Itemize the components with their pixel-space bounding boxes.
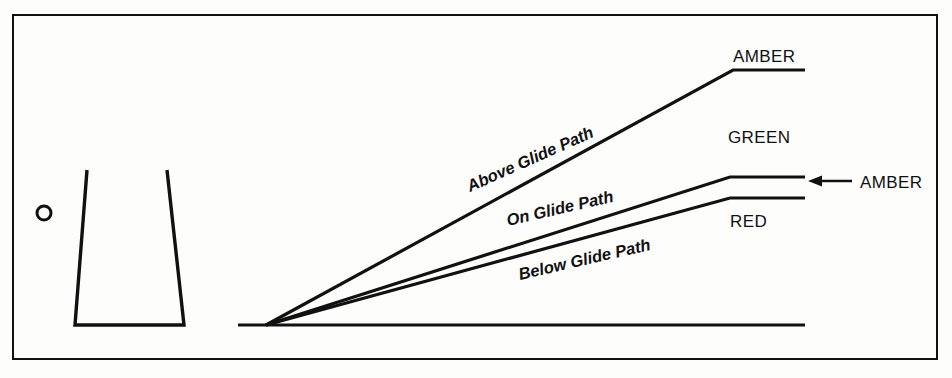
glide-path-diagram: Above Glide Path On Glide Path Below Gli… bbox=[0, 0, 952, 378]
zone-label-amber-top: AMBER bbox=[733, 47, 795, 66]
beam-above-glide-path bbox=[266, 70, 805, 325]
beam-label-above-glide-path: Above Glide Path bbox=[463, 123, 596, 195]
zone-label-red-bottom: RED bbox=[730, 212, 767, 231]
callout-label-amber: AMBER bbox=[860, 173, 922, 192]
beam-label-on-glide-path: On Glide Path bbox=[505, 187, 615, 229]
zone-label-green-middle: GREEN bbox=[728, 128, 790, 147]
beam-label-below-glide-path: Below Glide Path bbox=[517, 235, 652, 283]
runway-trapezoid bbox=[75, 170, 184, 325]
amber-callout-arrow-icon bbox=[808, 176, 852, 187]
light-unit-circle bbox=[37, 206, 51, 220]
diagram-canvas: Above Glide Path On Glide Path Below Gli… bbox=[0, 0, 952, 378]
